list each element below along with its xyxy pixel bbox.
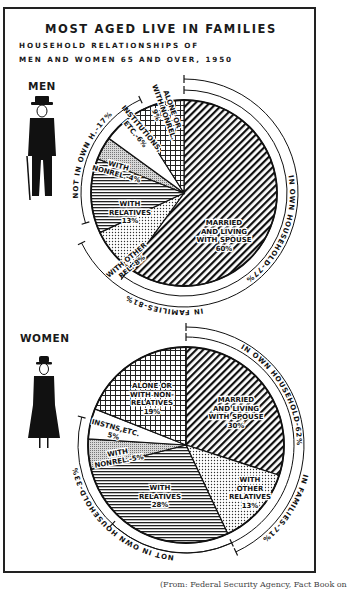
source-footer: (From: Federal Security Agency, Fact Boo… (160, 580, 347, 589)
woman-with-hat-icon (28, 356, 60, 448)
men-pie-chart: MARRIEDAND LIVINGWITH SPOUSE60%WITH OTHE… (72, 75, 298, 316)
man-with-cane-icon (27, 96, 56, 200)
women-pie-chart: MARRIEDAND LIVINGWITH SPOUSE30%WITHOTHER… (71, 323, 309, 561)
